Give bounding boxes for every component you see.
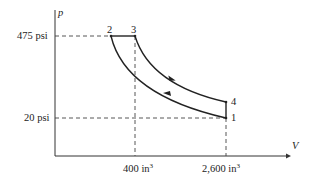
point-1-label: 1 bbox=[231, 113, 236, 124]
p-high-tick: 475 psi bbox=[17, 31, 48, 42]
v-axis-arrow-icon bbox=[286, 154, 291, 159]
point-3-label: 3 bbox=[131, 25, 136, 36]
point-2-label: 2 bbox=[107, 25, 112, 36]
process-3-4 bbox=[135, 36, 226, 102]
process-1-2 bbox=[111, 36, 226, 118]
v-low-tick: 400 in3 bbox=[123, 164, 153, 175]
point-4-marker bbox=[225, 101, 228, 104]
arrow-icon-1-2 bbox=[163, 91, 171, 96]
p-axis-label: p bbox=[58, 8, 63, 19]
pv-diagram-canvas bbox=[0, 0, 309, 178]
v-high-tick: 2,600 in3 bbox=[202, 164, 240, 175]
p-low-tick: 20 psi bbox=[24, 113, 49, 124]
point-4-label: 4 bbox=[231, 97, 236, 108]
arrow-icon-3-4 bbox=[168, 75, 177, 81]
point-1-marker bbox=[225, 117, 228, 120]
v-axis-label: V bbox=[292, 141, 298, 152]
